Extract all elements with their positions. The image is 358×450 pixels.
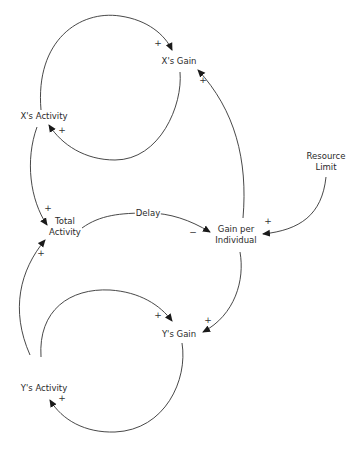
polarity-y-activity-to-total: + [37, 249, 45, 258]
polarity-x-gain-to-x-activity: + [58, 126, 66, 135]
node-resource-limit-line1: Resource [307, 151, 346, 162]
polarity-resource-limit-to-gain-per-individual: + [264, 217, 272, 226]
polarity-y-gain-to-y-activity: + [58, 394, 66, 403]
delay-label: Delay [135, 208, 161, 218]
node-resource-limit: Resource Limit [307, 151, 346, 173]
node-resource-limit-line2: Limit [307, 162, 346, 173]
link-x-activity-to-x-gain [40, 15, 172, 110]
polarity-gain-per-individual-to-y-gain: + [204, 316, 212, 325]
link-gain-per-individual-to-x-gain [198, 70, 244, 218]
link-y-activity-to-y-gain [41, 290, 172, 357]
link-y-gain-to-y-activity [50, 343, 183, 432]
polarity-y-activity-to-y-gain: + [154, 311, 162, 320]
node-gain-per-individual-line1: Gain per [215, 224, 256, 235]
polarity-x-activity-to-total: + [44, 204, 52, 213]
node-gain-per-individual-line2: Individual [215, 235, 256, 246]
link-resource-limit-to-gain-per-individual [263, 177, 326, 234]
link-x-gain-to-x-activity [49, 72, 180, 160]
polarity-x-activity-to-x-gain: + [154, 39, 162, 48]
node-y-gain: Y's Gain [162, 329, 196, 340]
node-total-activity-line1: Total [49, 216, 81, 227]
node-x-activity: X's Activity [20, 111, 67, 122]
node-x-gain: X's Gain [162, 56, 197, 67]
node-gain-per-individual: Gain per Individual [215, 224, 256, 246]
polarity-gain-per-individual-to-x-gain: + [199, 76, 207, 85]
node-total-activity-line2: Activity [49, 227, 81, 238]
polarity-total-to-gain-per-individual: − [189, 228, 197, 237]
node-total-activity: Total Activity [49, 216, 81, 238]
